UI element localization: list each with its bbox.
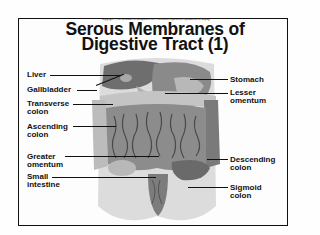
leader-line-ascending-colon [73, 126, 116, 127]
title-line-2: Digestive Tract (1) [60, 37, 250, 52]
leader-line-gallbladder [77, 90, 97, 91]
label-greater-omentum: Greater omentum [27, 153, 63, 168]
leader-line-liver [50, 75, 120, 76]
leader-line-descending-colon [207, 159, 228, 160]
leader-line-lesser-omentum [165, 93, 228, 94]
leader-line-small-intestine [52, 177, 156, 178]
label-transverse-colon: Transverse colon [27, 100, 69, 115]
leader-line-transverse-colon [73, 104, 113, 105]
label-stomach: Stomach [230, 76, 264, 84]
label-gallbladder: Gallbladder [27, 86, 71, 94]
label-small-intestine: Small intestine [27, 173, 60, 188]
leader-line-greater-omentum [65, 156, 159, 157]
leader-line-sigmoid-colon [188, 187, 228, 188]
diagram-title: Serous Membranes of Digestive Tract (1) [60, 22, 250, 52]
digestive-tract-illustration [92, 56, 222, 226]
label-sigmoid-colon: Sigmoid colon [230, 184, 262, 199]
label-liver: Liver [27, 71, 46, 79]
label-lesser-omentum: Lesser omentum [230, 89, 266, 104]
label-ascending-colon: Ascending colon [27, 123, 68, 138]
leader-line-stomach [190, 79, 228, 80]
label-descending-colon: Descending colon [230, 156, 275, 171]
